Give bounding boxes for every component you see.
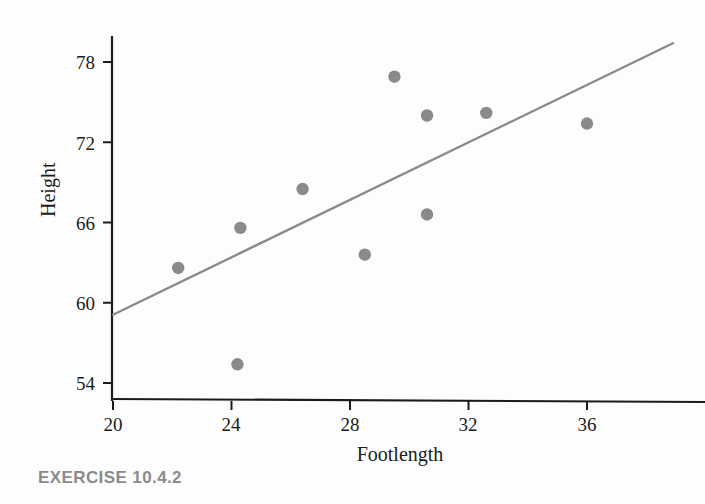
y-tick-label-54: 54 [55, 374, 95, 393]
plot-canvas [0, 0, 705, 460]
x-tick-label-28: 28 [330, 415, 370, 434]
y-tick-label-72: 72 [55, 134, 95, 153]
regression-trendline [113, 43, 673, 315]
data-point-0-7 [421, 208, 433, 220]
data-point-0-0 [172, 262, 184, 274]
x-tick-label-36: 36 [567, 415, 607, 434]
data-point-0-9 [581, 117, 593, 129]
x-tick-label-32: 32 [448, 415, 488, 434]
x-tick-label-24: 24 [211, 415, 251, 434]
x-axis-title: Footlength [300, 444, 500, 464]
data-point-0-3 [296, 183, 308, 195]
data-point-0-1 [234, 222, 246, 234]
y-tick-label-60: 60 [55, 294, 95, 313]
data-point-0-5 [388, 71, 400, 83]
figure-page: 78 72 66 60 54 20 24 28 32 36 Height Foo… [0, 0, 705, 504]
data-point-0-6 [421, 109, 433, 121]
data-point-0-8 [480, 107, 492, 119]
y-tick-label-66: 66 [55, 214, 95, 233]
scatterplot-figure: 78 72 66 60 54 20 24 28 32 36 Height Foo… [0, 0, 705, 460]
x-axis-line [112, 399, 705, 402]
y-axis-title: Height [38, 173, 58, 217]
y-tick-label-78: 78 [55, 53, 95, 72]
x-tick-label-20: 20 [93, 415, 133, 434]
data-point-0-2 [231, 358, 243, 370]
data-point-0-4 [359, 248, 371, 260]
figure-caption: EXERCISE 10.4.2 [38, 468, 182, 488]
